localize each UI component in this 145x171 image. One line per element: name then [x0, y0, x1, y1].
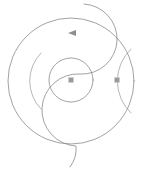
arrow-left-marker [68, 30, 76, 36]
left-crescent-arc [30, 53, 41, 109]
lens-square-marker [115, 78, 120, 83]
center-square-marker [69, 78, 74, 83]
geometric-diagram [0, 0, 145, 171]
figure-canvas: Geometric circle diagram Outer circle di… [0, 0, 145, 171]
